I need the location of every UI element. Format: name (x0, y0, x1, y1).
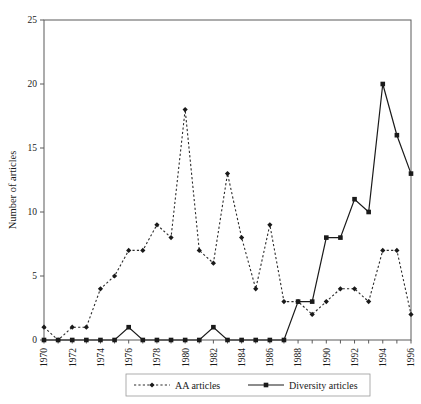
data-point-marker (211, 325, 216, 330)
data-point-marker (84, 338, 89, 343)
data-point-marker (253, 286, 258, 291)
data-point-marker (112, 273, 117, 278)
x-tick-label: 1986 (265, 348, 275, 367)
legend-label: AA articles (175, 380, 220, 391)
x-tick-label: 1992 (350, 348, 360, 367)
data-point-marker (140, 248, 145, 253)
x-axis-ticks: 1970197219741976197819801982198419861988… (39, 340, 416, 367)
data-point-marker (324, 299, 329, 304)
data-point-marker (264, 383, 269, 388)
data-point-marker (183, 338, 188, 343)
series-line (44, 84, 411, 340)
series-aa-articles (41, 107, 413, 343)
x-tick-label: 1978 (152, 348, 162, 367)
data-point-marker (267, 222, 272, 227)
y-tick-label: 5 (32, 271, 37, 281)
data-point-marker (98, 286, 103, 291)
data-point-marker (281, 299, 286, 304)
y-axis-label: Number of articles (7, 151, 18, 230)
x-tick-label: 1974 (96, 348, 106, 367)
data-point-marker (380, 248, 385, 253)
data-point-marker (56, 338, 61, 343)
x-tick-label: 1988 (293, 348, 303, 367)
x-tick-label: 1996 (406, 348, 416, 367)
data-point-marker (408, 312, 413, 317)
data-point-marker (282, 338, 287, 343)
data-point-marker (352, 197, 357, 202)
x-tick-label: 1970 (39, 348, 49, 367)
x-tick-label: 1972 (68, 348, 78, 367)
line-chart: 0510152025 19701972197419761978198019821… (0, 0, 421, 404)
x-tick-label: 1994 (378, 348, 388, 367)
data-point-marker (98, 338, 103, 343)
y-axis-title: Number of articles (7, 151, 18, 230)
legend-label: Diversity articles (289, 380, 358, 391)
y-tick-label: 25 (28, 15, 38, 25)
data-point-marker (296, 299, 301, 304)
data-point-marker (168, 235, 173, 240)
data-point-marker (225, 338, 230, 343)
chart-legend: AA articlesDiversity articles (126, 374, 370, 396)
data-point-marker (268, 338, 273, 343)
data-point-marker (338, 235, 343, 240)
data-point-marker (126, 325, 131, 330)
x-tick-label: 1984 (237, 348, 247, 367)
data-point-marker (197, 338, 202, 343)
data-point-marker (41, 325, 46, 330)
y-tick-label: 20 (28, 79, 38, 89)
y-tick-label: 0 (32, 335, 37, 345)
y-axis-ticks: 0510152025 (28, 15, 45, 345)
data-point-marker (380, 82, 385, 87)
y-tick-label: 10 (28, 207, 38, 217)
y-tick-label: 15 (28, 143, 38, 153)
data-point-marker (225, 171, 230, 176)
data-point-marker (84, 325, 89, 330)
data-point-marker (239, 235, 244, 240)
x-tick-label: 1990 (322, 348, 332, 367)
data-series-group (41, 82, 413, 343)
data-point-marker (324, 235, 329, 240)
data-point-marker (70, 338, 75, 343)
x-tick-label: 1980 (181, 348, 191, 367)
data-point-marker (338, 286, 343, 291)
data-point-marker (183, 107, 188, 112)
series-line (44, 110, 411, 340)
data-point-marker (126, 248, 131, 253)
x-tick-label: 1982 (209, 348, 219, 367)
data-point-marker (169, 338, 174, 343)
data-point-marker (253, 338, 258, 343)
data-point-marker (112, 338, 117, 343)
data-point-marker (154, 222, 159, 227)
data-point-marker (141, 338, 146, 343)
data-point-marker (409, 171, 414, 176)
data-point-marker (155, 338, 160, 343)
chart-figure: 0510152025 19701972197419761978198019821… (0, 0, 421, 404)
data-point-marker (310, 299, 315, 304)
x-tick-label: 1976 (124, 348, 134, 367)
data-point-marker (394, 248, 399, 253)
series-diversity-articles (42, 82, 414, 343)
data-point-marker (395, 133, 400, 138)
data-point-marker (366, 210, 371, 215)
data-point-marker (42, 338, 47, 343)
data-point-marker (239, 338, 244, 343)
